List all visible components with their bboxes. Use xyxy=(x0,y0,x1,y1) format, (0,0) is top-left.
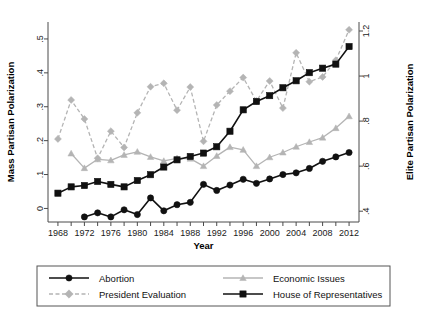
data-point xyxy=(200,181,206,187)
data-point xyxy=(333,61,339,67)
data-point xyxy=(161,164,167,170)
legend-label: Economic Issues xyxy=(273,273,345,284)
data-point xyxy=(147,195,153,201)
data-point xyxy=(306,165,312,171)
data-point xyxy=(306,70,312,76)
left-axis-tick-label: .3 xyxy=(35,103,45,111)
right-axis-tick-label: .8 xyxy=(361,117,371,125)
bottom-axis-tick-label: 1988 xyxy=(180,228,200,238)
data-point xyxy=(253,180,259,186)
data-point xyxy=(174,157,180,163)
right-axis-tick-label: .4 xyxy=(361,207,371,215)
bottom-axis-tick-label: 1984 xyxy=(154,228,174,238)
data-point xyxy=(293,78,299,84)
data-point xyxy=(267,176,273,182)
data-point xyxy=(81,214,87,220)
data-point xyxy=(227,128,233,134)
left-axis-tick-label: .1 xyxy=(35,171,45,179)
bottom-axis-tick-label: 1976 xyxy=(101,228,121,238)
data-point xyxy=(346,43,352,49)
data-point xyxy=(134,177,140,183)
data-point xyxy=(227,182,233,188)
data-point xyxy=(240,107,246,113)
data-point xyxy=(253,98,259,104)
bottom-axis-title: Year xyxy=(193,240,213,251)
data-point xyxy=(108,181,114,187)
bottom-axis-tick-label: 2012 xyxy=(339,228,359,238)
data-point xyxy=(320,65,326,71)
left-axis-tick-label: .2 xyxy=(35,137,45,145)
data-point xyxy=(187,153,193,159)
bottom-axis-tick-label: 1992 xyxy=(207,228,227,238)
legend-marker xyxy=(240,291,246,297)
right-axis-tick-label: 1.2 xyxy=(361,25,371,38)
bottom-axis-tick-label: 1968 xyxy=(48,228,68,238)
bottom-axis-tick-label: 1972 xyxy=(74,228,94,238)
left-axis-tick-label: 0 xyxy=(35,206,45,211)
legend-label: House of Representatives xyxy=(273,289,383,300)
bottom-axis-tick-label: 1996 xyxy=(233,228,253,238)
bottom-axis-tick-label: 2004 xyxy=(286,228,306,238)
legend-label: President Evaluation xyxy=(99,289,186,300)
right-axis-title: Elite Partisan Polarization xyxy=(404,63,415,180)
polarization-line-chart: 0.1.2.3.4.5 .4.6.811.2 19681972197619801… xyxy=(0,0,427,313)
data-point xyxy=(320,158,326,164)
data-point xyxy=(214,144,220,150)
data-point xyxy=(293,170,299,176)
left-axis-tick-label: .5 xyxy=(35,35,45,43)
data-point xyxy=(68,184,74,190)
legend-item-president-evaluation[interactable]: President Evaluation xyxy=(49,289,186,300)
data-point xyxy=(121,184,127,190)
legend-label: Abortion xyxy=(99,273,134,284)
right-axis-tick-label: .6 xyxy=(361,162,371,170)
data-point xyxy=(280,85,286,91)
left-axis-tick-label: .4 xyxy=(35,69,45,77)
data-point xyxy=(280,171,286,177)
bottom-axis-tick-label: 2008 xyxy=(313,228,333,238)
data-point xyxy=(108,214,114,220)
data-point xyxy=(174,202,180,208)
data-point xyxy=(333,154,339,160)
legend-marker xyxy=(66,275,72,281)
data-point xyxy=(346,149,352,155)
data-point xyxy=(121,207,127,213)
data-point xyxy=(147,172,153,178)
data-point xyxy=(267,93,273,99)
data-point xyxy=(161,208,167,214)
data-point xyxy=(81,182,87,188)
data-point xyxy=(240,176,246,182)
data-point xyxy=(214,187,220,193)
data-point xyxy=(95,178,101,184)
data-point xyxy=(187,199,193,205)
bottom-axis-tick-label: 1980 xyxy=(127,228,147,238)
bottom-axis-tick-label: 2000 xyxy=(260,228,280,238)
left-axis-title: Mass Partisan Polarization xyxy=(5,62,16,183)
data-point xyxy=(200,150,206,156)
chart-figure: 0.1.2.3.4.5 .4.6.811.2 19681972197619801… xyxy=(0,0,427,313)
data-point xyxy=(55,190,61,196)
data-point xyxy=(95,210,101,216)
data-point xyxy=(134,211,140,217)
right-axis-tick-label: 1 xyxy=(361,74,371,79)
